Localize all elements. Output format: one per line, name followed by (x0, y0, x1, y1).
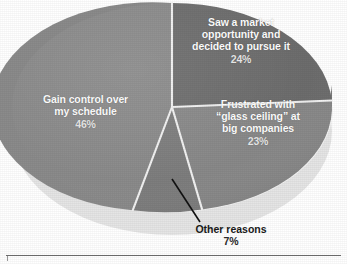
pie-chart-figure: Saw a market opportunity and decided to … (0, 0, 347, 264)
pie-chart-graphic (0, 0, 347, 264)
footer-rule (6, 256, 341, 262)
pie-top-face (0, 2, 332, 212)
